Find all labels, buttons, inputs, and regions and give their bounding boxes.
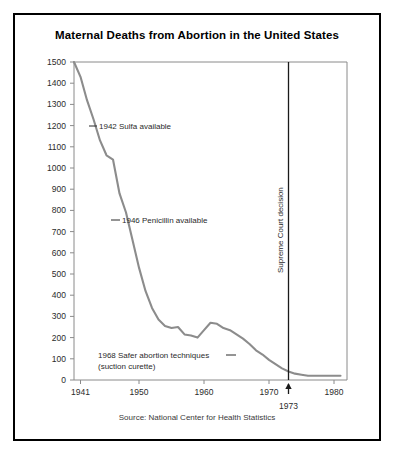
supreme-court-label: Supreme Court decision: [276, 187, 285, 273]
y-tick-label: 1000: [47, 163, 66, 173]
penicillin-label: 1946 Penicillin available: [122, 216, 208, 225]
y-tick-label: 100: [52, 354, 66, 364]
year-1973-label: 1973: [279, 401, 298, 411]
safer-label-line2: (suction curette): [98, 362, 156, 371]
y-tick-label: 400: [52, 290, 66, 300]
y-tick-label: 0: [61, 375, 66, 385]
year-1973-marker: 1973: [279, 383, 298, 411]
year-1973-arrow-head: [285, 383, 291, 389]
chart-source-caption: Source: National Center for Health Stati…: [15, 413, 379, 422]
y-tick-label: 900: [52, 184, 66, 194]
y-tick-label: 800: [52, 205, 66, 215]
penicillin-annotation: 1946 Penicillin available: [111, 216, 208, 225]
y-tick-label: 600: [52, 248, 66, 258]
safer-techniques-annotation: 1968 Safer abortion techniques (suction …: [98, 351, 236, 371]
x-tick-label: 1980: [325, 387, 344, 397]
x-tick-label: 1950: [130, 387, 149, 397]
y-tick-label: 700: [52, 227, 66, 237]
chart-svg: 0100200300400500600700800900100011001200…: [15, 15, 383, 443]
y-tick-label: 1200: [47, 121, 66, 131]
x-axis-ticks: 19411950196019701980: [71, 380, 344, 397]
y-tick-label: 1500: [47, 57, 66, 67]
y-tick-label: 1400: [47, 78, 66, 88]
y-tick-label: 1300: [47, 99, 66, 109]
y-tick-label: 500: [52, 269, 66, 279]
sulfa-label: 1942 Sulfa available: [99, 122, 172, 131]
chart-plot-area: 0100200300400500600700800900100011001200…: [15, 15, 383, 443]
figure-frame: Maternal Deaths from Abortion in the Uni…: [13, 13, 381, 441]
y-tick-label: 1100: [48, 142, 67, 152]
x-tick-label: 1960: [195, 387, 214, 397]
sulfa-annotation: 1942 Sulfa available: [89, 122, 172, 131]
axis-frame: [74, 62, 347, 380]
y-tick-label: 300: [52, 311, 66, 321]
y-tick-label: 200: [52, 333, 66, 343]
x-tick-label: 1970: [260, 387, 279, 397]
x-tick-label: 1941: [71, 387, 90, 397]
y-axis-ticks: 0100200300400500600700800900100011001200…: [47, 57, 74, 385]
safer-label-line1: 1968 Safer abortion techniques: [98, 351, 209, 360]
supreme-court-annotation: Supreme Court decision: [276, 187, 285, 273]
